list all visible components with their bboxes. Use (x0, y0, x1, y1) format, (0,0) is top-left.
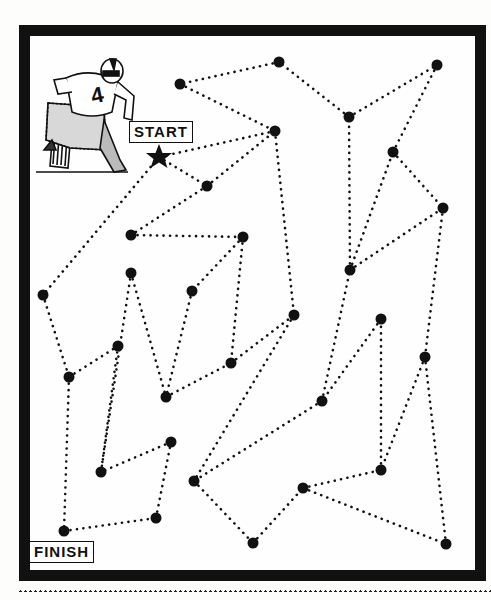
dotted-path-segment (393, 152, 443, 208)
dotted-path-segment (159, 157, 207, 186)
waypoint-dot (376, 314, 387, 325)
waypoint-dot (126, 268, 137, 279)
dotted-path-segment (180, 84, 275, 131)
waypoint-dot (432, 60, 443, 71)
dotted-path-segment (231, 315, 294, 363)
waypoint-dot (270, 126, 281, 137)
dotted-path-segment (156, 442, 171, 518)
motorcyclist-illustration (36, 59, 134, 172)
dotted-path-segment (350, 208, 443, 270)
waypoint-dot (441, 539, 452, 550)
waypoint-dot (345, 265, 356, 276)
finish-label: FINISH (29, 541, 94, 563)
dotted-path-segment (43, 157, 159, 295)
waypoint-dot (388, 147, 399, 158)
dotted-path-segment (425, 208, 443, 357)
waypoint-dot (202, 181, 213, 192)
waypoint-dot (175, 79, 186, 90)
waypoint-dot (189, 476, 200, 487)
dotted-path-segment (349, 117, 350, 270)
dotted-path-segment (350, 152, 393, 270)
dotted-cut-line (18, 590, 491, 592)
dotted-path-segment (194, 401, 322, 481)
dotted-path-segment (101, 442, 171, 472)
waypoint-dot (166, 437, 177, 448)
dotted-path-segment (131, 186, 207, 235)
waypoint-dot (151, 513, 162, 524)
waypoint-dot (96, 467, 107, 478)
dotted-path-segment (64, 518, 156, 531)
waypoint-dot (248, 538, 259, 549)
waypoint-dot (126, 230, 137, 241)
waypoint-dot (187, 286, 198, 297)
waypoint-dot (38, 290, 49, 301)
waypoint-dot (226, 358, 237, 369)
waypoint-dot (298, 483, 309, 494)
dot-maze-canvas: 4 (0, 0, 491, 600)
dotted-path-segment (192, 237, 243, 291)
dotted-path-segment (43, 295, 69, 377)
dotted-path-segment (253, 488, 303, 543)
waypoint-dot (376, 465, 387, 476)
dotted-path-segment (349, 65, 437, 117)
waypoint-dot (438, 203, 449, 214)
dotted-path-segment (166, 363, 231, 397)
dotted-path-segment (303, 488, 446, 544)
dotted-path-segment (393, 65, 437, 152)
waypoint-dot (289, 310, 300, 321)
dotted-path-segment (425, 357, 446, 544)
dotted-path-segment (194, 481, 253, 543)
dotted-path-segment (275, 131, 294, 315)
waypoint-dot (113, 341, 124, 352)
waypoint-dot (317, 396, 328, 407)
dotted-path-segment (322, 319, 381, 401)
dotted-path-segment (131, 235, 243, 237)
dotted-path-segment (303, 470, 381, 488)
waypoint-dot (64, 372, 75, 383)
waypoint-dot (59, 526, 70, 537)
dotted-path-segment (69, 346, 118, 377)
dotted-path-segment (180, 62, 279, 84)
dotted-path-segment (131, 273, 166, 397)
waypoint-dot (274, 57, 285, 68)
waypoint-dot (238, 232, 249, 243)
dotted-path-segment (194, 315, 294, 481)
waypoint-dot (420, 352, 431, 363)
dotted-path-segment (166, 291, 192, 397)
waypoint-dot (161, 392, 172, 403)
start-star-icon (146, 144, 172, 168)
dotted-path-segment (279, 62, 349, 117)
dotted-path-segment (64, 377, 69, 531)
dotted-path-segment (231, 237, 243, 363)
start-label: START (129, 121, 193, 143)
maze-puzzle: 4 START FINISH (0, 0, 491, 600)
waypoint-dot (344, 112, 355, 123)
dotted-path-segment (381, 357, 425, 470)
dotted-path-segment (207, 131, 275, 186)
